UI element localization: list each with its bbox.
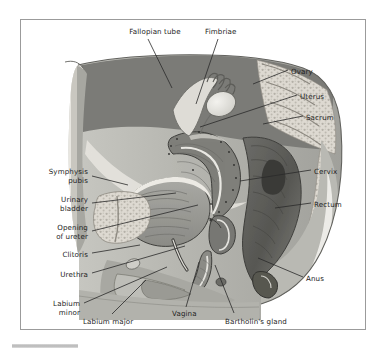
- label-bartholins-gland: Bartholin's gland: [225, 318, 315, 327]
- label-labium-major: Labium major: [83, 318, 155, 327]
- label-fimbriae: Fimbriae: [205, 28, 261, 37]
- page-edge-artifact: [12, 344, 78, 348]
- label-symphysis-pubis: Symphysis pubis: [24, 168, 88, 185]
- label-clitoris: Clitoris: [36, 251, 88, 260]
- label-fallopian-tube: Fallopian tube: [118, 28, 192, 37]
- rectal-lumen: [262, 160, 286, 195]
- label-opening-of-ureter: Opening of ureter: [22, 224, 88, 241]
- label-anus: Anus: [306, 275, 346, 284]
- label-cervix: Cervix: [314, 168, 358, 177]
- label-ovary: Ovary: [291, 68, 337, 77]
- bartholins-gland: [216, 278, 226, 286]
- label-sacrum: Sacrum: [306, 114, 354, 123]
- label-labium-minor: Labium minor: [28, 300, 80, 317]
- label-urinary-bladder: Urinary bladder: [24, 196, 88, 213]
- label-urethra: Urethra: [36, 271, 88, 280]
- label-rectum: Rectum: [314, 201, 362, 210]
- figure-page: Fallopian tubeFimbriaeOvaryUterusSacrumC…: [0, 0, 377, 353]
- label-vagina: Vagina: [172, 310, 216, 319]
- label-uterus: Uterus: [300, 93, 346, 102]
